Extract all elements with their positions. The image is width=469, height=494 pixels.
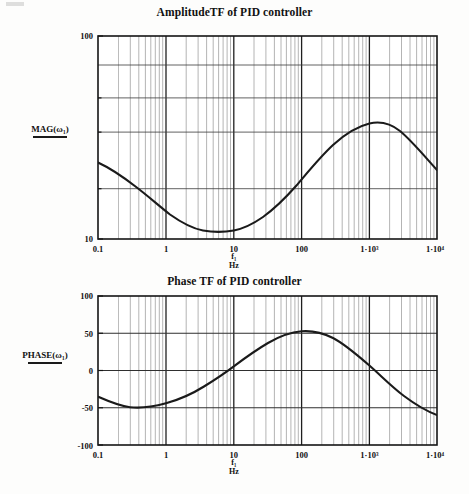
- amplitude-xtick-0: 0.1: [93, 244, 104, 254]
- phase-xaxis-unit: Hz: [229, 467, 239, 476]
- phase-plot: 100 50 0 -50 -100 0.1 1 10 100 1·10³ 1·1…: [0, 272, 469, 494]
- phase-ytick-0: 0: [89, 366, 93, 376]
- phase-xtick-3: 100: [295, 450, 308, 460]
- phase-chart-block: Phase TF of PID controller PHASE(ω₁): [0, 272, 469, 494]
- phase-ytick-100: 100: [80, 291, 93, 301]
- amplitude-xtick-4: 1·10³: [360, 244, 379, 254]
- amplitude-ytick-10: 10: [85, 234, 94, 244]
- phase-ytick-50: 50: [85, 329, 94, 339]
- amplitude-xtick-3: 100: [295, 244, 308, 254]
- amplitude-xtick-5: 1·10⁴: [426, 244, 445, 254]
- phase-ytick-minus50: -50: [82, 403, 93, 413]
- phase-ytick-minus100: -100: [77, 441, 93, 451]
- amplitude-ytick-100: 100: [80, 31, 93, 41]
- amplitude-chart-block: AmplitudeTF of PID controller MAG(ω₁): [0, 0, 469, 272]
- amplitude-plot-background: [98, 36, 437, 239]
- phase-xtick-1: 1: [164, 450, 168, 460]
- phase-xtick-5: 1·10⁴: [426, 450, 445, 460]
- amplitude-plot: 100 10 0.1 1 10 100 1·10³ 1·10⁴ f₁ Hz: [0, 0, 469, 272]
- amplitude-xtick-1: 1: [164, 244, 168, 254]
- phase-xtick-0: 0.1: [93, 450, 104, 460]
- phase-xtick-4: 1·10³: [360, 450, 379, 460]
- amplitude-xaxis-unit: Hz: [229, 261, 239, 270]
- amplitude-xaxis-symbol: f₁: [231, 252, 237, 261]
- phase-xaxis-symbol: f₁: [231, 458, 237, 467]
